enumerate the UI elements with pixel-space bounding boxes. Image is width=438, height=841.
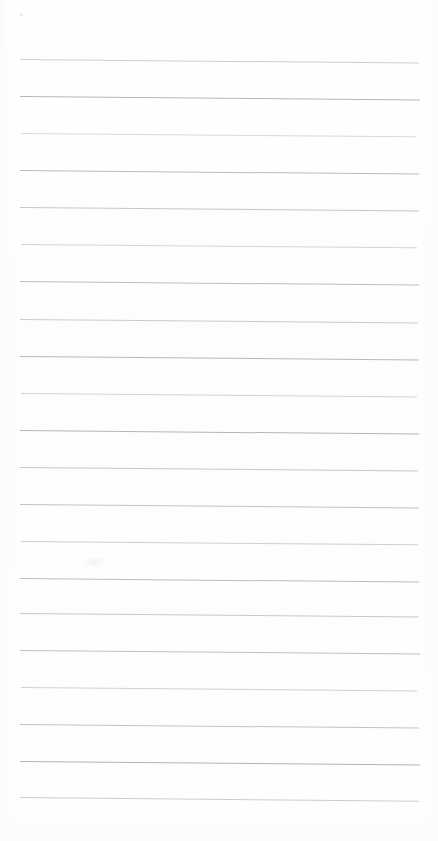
rule-line [21,541,418,545]
rule-line [20,207,419,212]
rule-line [20,797,419,802]
rule-line [20,281,419,286]
top-left-speck-mark [20,13,23,16]
rule-line [20,578,419,583]
rule-line [20,319,418,324]
rule-line [20,724,419,729]
rule-line [20,96,420,100]
rule-line [20,467,418,471]
rule-line [21,393,417,397]
rule-line [21,244,417,248]
ruled-lines-group [0,0,438,841]
rule-line [20,356,419,360]
mid-left-smudge-mark [84,556,106,568]
rule-line [20,613,419,618]
rule-line [20,170,419,175]
scanned-page [0,0,438,841]
rule-line [20,650,420,654]
rule-line [20,59,419,64]
rule-line [20,761,420,765]
rule-line [20,430,419,435]
rule-line [21,133,416,137]
rule-line [21,687,417,691]
rule-line [20,504,419,509]
